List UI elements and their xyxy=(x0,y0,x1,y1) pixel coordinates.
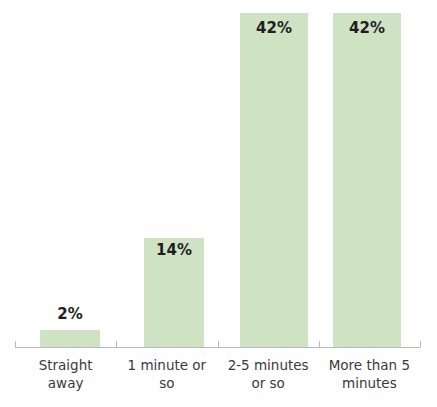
x-label-straight-away: Straight away xyxy=(15,352,116,402)
x-label-line: or so xyxy=(220,374,317,392)
axis-tick-2 xyxy=(218,341,219,347)
x-label-line: away xyxy=(17,374,114,392)
axis-tick-1 xyxy=(116,341,117,347)
x-label-line: minutes xyxy=(321,374,418,392)
x-label-more-than-5-minutes: More than 5 minutes xyxy=(319,352,420,402)
bar-straight-away xyxy=(40,330,100,347)
x-axis-line xyxy=(15,347,420,348)
x-label-2-5-minutes-or-so: 2-5 minutes or so xyxy=(218,352,319,402)
bar-value-straight-away: 2% xyxy=(40,305,100,323)
axis-tick-4 xyxy=(420,341,421,347)
plot-area: 2% 14% 42% 42% xyxy=(0,0,437,347)
x-label-line: 2-5 minutes xyxy=(220,356,317,374)
x-label-line: 1 minute or xyxy=(118,356,215,374)
x-label-line: More than 5 xyxy=(321,356,418,374)
x-axis-labels: Straight away 1 minute or so 2-5 minutes… xyxy=(15,352,420,402)
bar-value-1-minute-or-so: 14% xyxy=(144,241,204,259)
axis-tick-3 xyxy=(319,341,320,347)
bar-2-5-minutes-or-so xyxy=(240,13,308,347)
bar-value-more-than-5-minutes: 42% xyxy=(333,19,401,37)
bar-more-than-5-minutes xyxy=(333,13,401,347)
axis-tick-0 xyxy=(15,341,16,347)
bar-chart: 2% 14% 42% 42% Straight away 1 minute or… xyxy=(0,0,437,407)
x-label-line: Straight xyxy=(17,356,114,374)
x-label-1-minute-or-so: 1 minute or so xyxy=(116,352,217,402)
bar-value-2-5-minutes-or-so: 42% xyxy=(240,19,308,37)
x-label-line: so xyxy=(118,374,215,392)
